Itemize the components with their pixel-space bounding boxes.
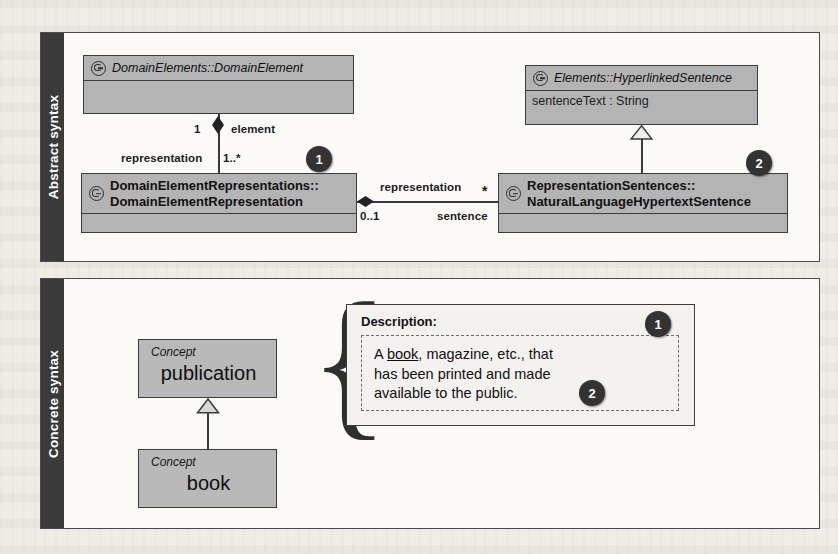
concept-publication-name: publication [151,361,266,385]
generalization-edge-abstract [641,137,643,173]
description-callout[interactable]: Description: A book, magazine, etc., tha… [346,304,695,426]
description-text-field[interactable]: A book, magazine, etc., that has been pr… [361,335,679,411]
class-natural-language-hypertext-sentence[interactable]: RepresentationSentences:: NaturalLanguag… [498,173,788,233]
class-domain-element-name: DomainElements::DomainElement [112,61,303,76]
concrete-syntax-panel: Concrete syntax Concept publication Conc… [40,278,820,529]
description-text: A book, magazine, etc., that has been pr… [374,345,666,404]
uml-class-icon [533,71,548,86]
diagram-page: Abstract syntax DomainElements::DomainEl… [0,0,838,554]
badge-abstract-1: 1 [306,146,332,172]
class-natural-language-hypertext-sentence-name: RepresentationSentences:: NaturalLanguag… [527,178,751,208]
class-domain-element[interactable]: DomainElements::DomainElement [83,55,354,114]
concrete-syntax-sidebar-label: Concrete syntax [41,279,64,528]
badge-concrete-2: 2 [579,380,605,406]
class-hyperlinked-sentence[interactable]: Elements::HyperlinkedSentence sentenceTe… [525,65,758,125]
class-hyperlinked-sentence-name: Elements::HyperlinkedSentence [554,71,732,86]
class-domain-element-representation[interactable]: DomainElementRepresentations:: DomainEle… [81,173,357,233]
class-domain-element-representation-header: DomainElementRepresentations:: DomainEle… [82,174,356,214]
generalization-arrow-abstract [630,125,653,140]
concept-publication-stereotype: Concept [151,346,266,359]
uml-class-icon [506,186,521,201]
edge-label-element-role: element [231,123,275,135]
class-natural-language-hypertext-sentence-header: RepresentationSentences:: NaturalLanguag… [499,174,787,214]
description-title: Description: [361,314,437,329]
description-text-line3: available to the public. [374,385,518,401]
badge-abstract-2: 2 [746,150,772,176]
edge-label-representation-role: representation [121,152,202,164]
uml-class-icon [91,61,106,76]
edge-label-sentence-role: sentence [437,210,488,222]
attribute-sentence-text: sentenceText : String [532,94,649,108]
description-text-pre: A [374,346,387,362]
abstract-syntax-sidebar-label: Abstract syntax [41,33,64,261]
class-domain-element-attributes [84,81,353,113]
badge-concrete-1: 1 [645,311,671,337]
class-domain-element-header: DomainElements::DomainElement [84,56,353,81]
abstract-syntax-panel: Abstract syntax DomainElements::DomainEl… [40,32,820,262]
abstract-syntax-label-text: Abstract syntax [45,95,60,199]
description-text-post: , magazine, etc., that [418,346,553,362]
generalization-edge-concrete [207,411,209,449]
generalization-arrow-concrete [196,398,220,414]
class-hyperlinked-sentence-attributes: sentenceText : String [526,91,757,124]
class-domain-element-representation-name-line1: DomainElementRepresentations:: [110,178,319,193]
uml-class-icon [89,186,104,201]
concept-book[interactable]: Concept book [138,449,277,508]
edge-label-sentence-owner-role: representation [380,181,461,193]
class-hyperlinked-sentence-header: Elements::HyperlinkedSentence [526,66,757,91]
class-nlhs-name-line1: RepresentationSentences:: [527,178,751,193]
class-domain-element-representation-attributes [82,214,356,232]
composition-edge-horizontal [357,201,498,203]
concept-publication[interactable]: Concept publication [138,339,277,398]
concept-book-name: book [151,471,266,495]
concept-book-stereotype: Concept [151,456,266,469]
description-hyperlink-book[interactable]: book [387,346,418,362]
concrete-syntax-label-text: Concrete syntax [45,349,60,457]
composition-diamond-vertical [212,116,224,134]
class-nlhs-name-line2: NaturalLanguageHypertextSentence [527,194,751,209]
edge-label-representation-multiplicity: 1..* [223,152,241,164]
edge-label-sentence-owner-multiplicity: 0..1 [360,210,380,222]
class-domain-element-representation-name: DomainElementRepresentations:: DomainEle… [110,178,319,208]
edge-label-element-multiplicity: 1 [194,123,201,135]
description-text-line2: has been printed and made [374,366,551,382]
class-nlhs-attributes [499,214,787,232]
edge-label-sentence-multiplicity: * [482,183,488,199]
composition-diamond-horizontal [357,196,374,207]
class-domain-element-representation-name-line2: DomainElementRepresentation [110,194,319,209]
